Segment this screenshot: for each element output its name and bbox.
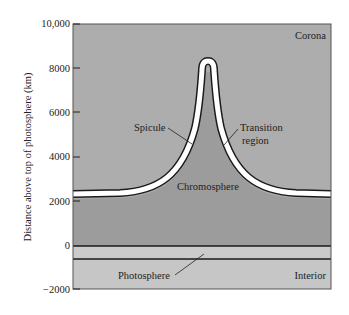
- photosphere-region: [73, 246, 331, 259]
- y-tick-label: 10,000: [41, 18, 70, 29]
- photosphere-label: Photosphere: [118, 270, 170, 281]
- y-tick-label: 8000: [49, 63, 70, 74]
- y-tick-label: 6000: [49, 107, 70, 118]
- chromosphere-label: Chromosphere: [177, 181, 239, 192]
- y-axis-title: Distance above top of photosphere (km): [22, 72, 34, 241]
- transition-label-line2: region: [242, 135, 270, 146]
- y-tick-label: 4000: [49, 151, 70, 162]
- y-tick-label: −2000: [43, 284, 70, 295]
- spicule-label: Spicule: [134, 122, 166, 133]
- corona-label: Corona: [295, 30, 326, 41]
- interior-label: Interior: [295, 270, 327, 281]
- chromosphere-diagram: 10,000 8000 6000 4000 2000 0 −2000 Dista…: [0, 0, 349, 315]
- transition-label-line1: Transition: [240, 122, 284, 133]
- interior-region: [73, 259, 331, 289]
- y-tick-label: 0: [65, 240, 70, 251]
- y-tick-label: 2000: [49, 196, 70, 207]
